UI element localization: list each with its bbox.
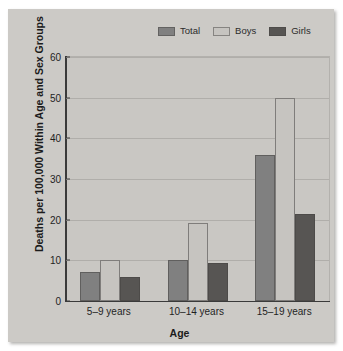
bar-girls-group-3	[295, 214, 315, 301]
legend-label: Boys	[235, 26, 256, 36]
y-tick-mark	[66, 179, 70, 180]
legend-swatch-girls-icon	[269, 27, 286, 36]
bar-total-group-3	[255, 155, 275, 301]
y-tick-mark	[66, 97, 70, 98]
y-tick-label: 20	[50, 214, 61, 225]
bar-boys-group-1	[100, 260, 120, 301]
y-tick-mark	[66, 219, 70, 220]
y-tick-label: 60	[50, 52, 61, 63]
bar-girls-group-1	[120, 277, 140, 301]
y-tick-mark	[66, 301, 70, 302]
x-category-label: 10–14 years	[169, 306, 224, 317]
bar-total-group-2	[168, 260, 188, 301]
y-tick-mark	[66, 260, 70, 261]
bar-total-group-1	[80, 272, 100, 301]
x-category-label: 15–19 years	[257, 306, 312, 317]
y-tick-label: 40	[50, 133, 61, 144]
gridline	[66, 57, 329, 58]
y-tick-mark	[66, 138, 70, 139]
chart-panel: TotalBoysGirls Deaths per 100,000 Within…	[8, 9, 334, 342]
bar-girls-group-2	[208, 263, 228, 301]
legend-entry-girls: Girls	[269, 26, 311, 36]
y-tick-mark	[66, 57, 70, 58]
legend-entry-total: Total	[158, 26, 200, 36]
legend-entry-boys: Boys	[213, 26, 256, 36]
x-category-label: 5–9 years	[87, 306, 131, 317]
bar-boys-group-3	[275, 98, 295, 301]
y-tick-label: 10	[50, 255, 61, 266]
y-tick-label: 0	[55, 296, 61, 307]
legend-label: Girls	[291, 26, 311, 36]
x-axis-title: Age	[8, 327, 343, 339]
y-tick-label: 50	[50, 92, 61, 103]
legend-swatch-boys-icon	[213, 27, 230, 36]
y-tick-label: 30	[50, 174, 61, 185]
chart-legend: TotalBoysGirls	[158, 24, 311, 38]
plot-area: 0102030405060	[65, 56, 330, 302]
legend-label: Total	[180, 26, 200, 36]
legend-swatch-total-icon	[158, 27, 175, 36]
y-axis-title: Deaths per 100,000 Within Age and Sex Gr…	[33, 22, 45, 252]
bar-boys-group-2	[188, 223, 208, 301]
chart-figure: TotalBoysGirls Deaths per 100,000 Within…	[0, 0, 343, 351]
